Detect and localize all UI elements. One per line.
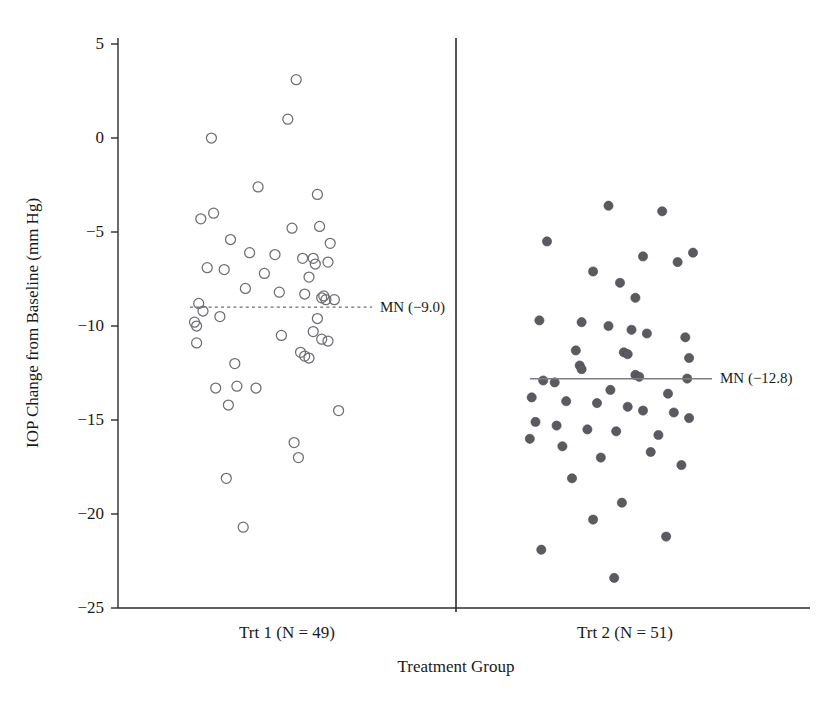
- data-point: [206, 133, 216, 143]
- data-point: [662, 532, 671, 541]
- data-point: [232, 381, 242, 391]
- data-point: [688, 248, 697, 257]
- data-points-trt2: [525, 201, 697, 582]
- data-point: [571, 346, 580, 355]
- data-point: [642, 329, 651, 338]
- data-point: [617, 498, 626, 507]
- data-point: [223, 400, 233, 410]
- y-tick-label: 0: [96, 128, 105, 147]
- data-point: [658, 207, 667, 216]
- data-point: [230, 359, 240, 369]
- data-point: [567, 474, 576, 483]
- data-point: [535, 316, 544, 325]
- data-point: [542, 237, 551, 246]
- data-point: [583, 425, 592, 434]
- data-point: [562, 397, 571, 406]
- data-point: [663, 389, 672, 398]
- data-point: [654, 430, 663, 439]
- data-point: [300, 289, 310, 299]
- data-point: [596, 453, 605, 462]
- data-point: [685, 414, 694, 423]
- iop-change-scatter-figure: 50−5−10−15−20−25 MN (−9.0) MN (−12.8) Tr…: [0, 0, 832, 710]
- data-point: [293, 453, 303, 463]
- data-point: [221, 473, 231, 483]
- data-point: [312, 189, 322, 199]
- data-point: [623, 350, 632, 359]
- data-point: [304, 272, 314, 282]
- data-point: [577, 365, 586, 374]
- data-point: [192, 321, 202, 331]
- x-tick-label-trt2: Trt 2 (N = 51): [577, 623, 673, 642]
- data-point: [627, 325, 636, 334]
- x-tick-label-trt1: Trt 1 (N = 49): [239, 623, 335, 642]
- x-axis-title: Treatment Group: [398, 657, 515, 676]
- data-point: [606, 385, 615, 394]
- data-point: [673, 258, 682, 267]
- mean-label-trt1: MN (−9.0): [380, 299, 445, 316]
- data-point: [240, 283, 250, 293]
- data-point: [270, 250, 280, 260]
- data-point: [283, 114, 293, 124]
- data-point: [334, 406, 344, 416]
- data-point: [310, 259, 320, 269]
- data-point: [298, 253, 308, 263]
- data-point: [276, 330, 286, 340]
- y-axis-title: IOP Change from Baseline (mm Hg): [23, 198, 42, 448]
- data-point: [531, 417, 540, 426]
- y-tick-label: −15: [77, 410, 104, 429]
- data-point: [610, 573, 619, 582]
- data-point: [589, 267, 598, 276]
- data-point: [317, 334, 327, 344]
- data-point: [635, 372, 644, 381]
- mean-label-trt2: MN (−12.8): [720, 370, 793, 387]
- data-point: [226, 235, 236, 245]
- y-tick-label: −10: [77, 316, 104, 335]
- data-point: [287, 223, 297, 233]
- data-point: [527, 393, 536, 402]
- data-point: [558, 442, 567, 451]
- data-point: [202, 263, 212, 273]
- data-point: [685, 353, 694, 362]
- data-point: [604, 201, 613, 210]
- scatter-plot-canvas: 50−5−10−15−20−25 MN (−9.0) MN (−12.8) Tr…: [0, 0, 832, 710]
- data-point: [209, 208, 219, 218]
- y-tick-label: −25: [77, 598, 104, 617]
- y-tick-label: −20: [77, 504, 104, 523]
- data-point: [312, 314, 322, 324]
- y-axis-tick-labels: 50−5−10−15−20−25: [77, 34, 104, 617]
- data-point: [308, 327, 318, 337]
- data-point: [669, 408, 678, 417]
- data-point: [308, 253, 318, 263]
- data-point: [323, 336, 333, 346]
- data-point: [251, 383, 261, 393]
- data-point: [323, 257, 333, 267]
- data-point: [525, 434, 534, 443]
- data-point: [681, 333, 690, 342]
- data-point: [291, 75, 301, 85]
- data-point: [289, 438, 299, 448]
- data-point: [219, 265, 229, 275]
- data-point: [253, 182, 263, 192]
- data-point: [646, 447, 655, 456]
- data-points-trt1: [190, 75, 344, 533]
- data-point: [325, 238, 335, 248]
- data-point: [623, 402, 632, 411]
- data-point: [589, 515, 598, 524]
- data-point: [196, 214, 206, 224]
- data-point: [577, 318, 586, 327]
- y-tick-label: 5: [96, 34, 105, 53]
- data-point: [677, 461, 686, 470]
- data-point: [211, 383, 221, 393]
- data-point: [638, 406, 647, 415]
- data-point: [592, 399, 601, 408]
- data-point: [315, 221, 325, 231]
- data-point: [631, 293, 640, 302]
- data-point: [274, 287, 284, 297]
- data-point: [615, 278, 624, 287]
- data-point: [638, 252, 647, 261]
- data-point: [215, 312, 225, 322]
- y-axis-ticks: [111, 44, 118, 608]
- data-point: [537, 545, 546, 554]
- data-point: [612, 427, 621, 436]
- data-point: [245, 248, 255, 258]
